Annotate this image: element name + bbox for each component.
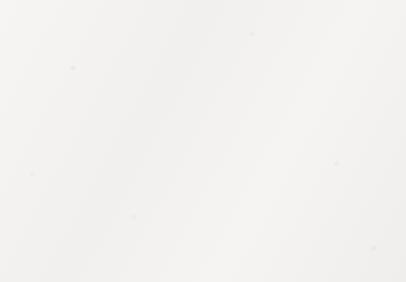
x-axis-category-labels: ElenaShelbyKristinRenee: [52, 243, 378, 254]
category-label-elena: Elena: [52, 243, 134, 254]
y-tick-label-60: $60: [32, 17, 46, 27]
category-label-shelby: Shelby: [134, 243, 216, 254]
y-tick-label-30: $30: [32, 125, 46, 135]
bar-slot-renee: [297, 22, 378, 237]
bar-slot-kristin: [216, 22, 297, 237]
bar-shelby[interactable]: [155, 58, 195, 237]
y-tick-label-10: $10: [32, 196, 46, 206]
y-tick-label-0: $0: [37, 232, 47, 242]
plot-area: $60$50$40$30$20$10$0: [52, 22, 378, 238]
x-tick-mark-2: [296, 237, 297, 241]
x-tick-mark-0: [133, 237, 134, 241]
category-label-renee: Renee: [297, 243, 379, 254]
y-tick-label-50: $50: [32, 53, 46, 63]
bars-layer: [53, 22, 378, 237]
y-tick-label-40: $40: [32, 89, 46, 99]
bar-renee[interactable]: [317, 201, 357, 237]
y-axis-title: Amount Raised: [0, 0, 10, 96]
category-label-kristin: Kristin: [215, 243, 297, 254]
bar-slot-elena: [53, 22, 134, 237]
y-tick-label-20: $20: [32, 160, 46, 170]
bar-kristin[interactable]: [236, 165, 276, 237]
bar-slot-shelby: [134, 22, 215, 237]
x-tick-mark-1: [215, 237, 216, 241]
bar-elena[interactable]: [74, 58, 114, 237]
x-axis-title: Students: [52, 264, 378, 276]
